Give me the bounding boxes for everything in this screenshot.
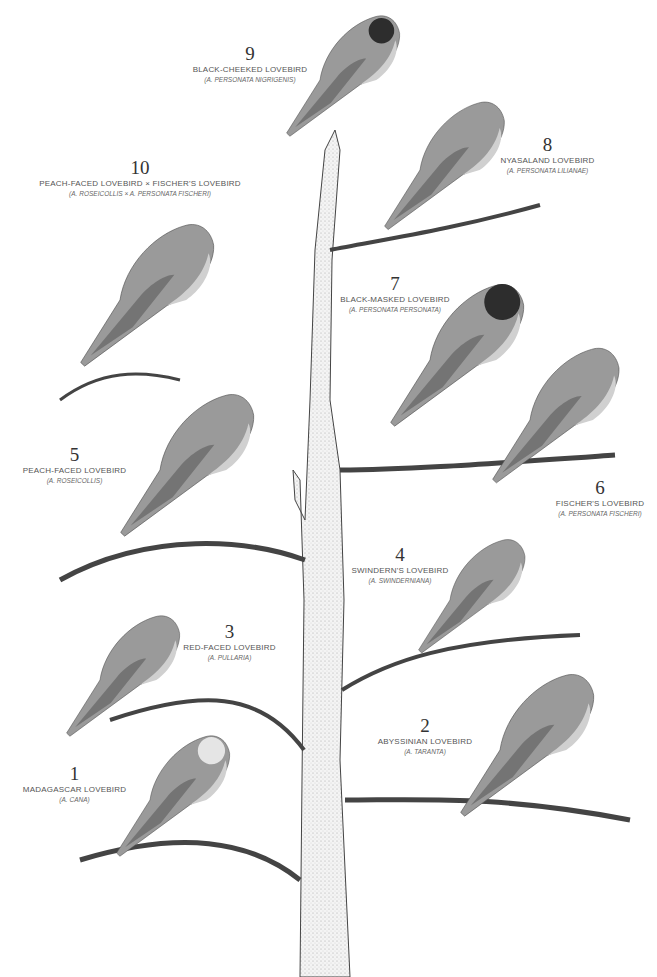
label-bird-3: 3 RED-FACED LOVEBIRD (A. PULLARIA) (182, 622, 277, 662)
bird-number: 10 (25, 158, 255, 178)
common-name: NYASALAND LOVEBIRD (495, 155, 600, 166)
bird-number: 5 (22, 445, 127, 465)
bird-number: 2 (360, 716, 490, 736)
label-bird-9: 9 BLACK-CHEEKED LOVEBIRD (A. PERSONATA N… (185, 44, 315, 84)
latin-name: (A. CANA) (22, 795, 127, 804)
latin-name: (A. PERSONATA LILIANAE) (495, 166, 600, 175)
bird-number: 4 (350, 545, 450, 565)
common-name: PEACH-FACED LOVEBIRD (22, 465, 127, 476)
bird-10 (47, 217, 238, 367)
latin-name: (A. TARANTA) (360, 747, 490, 756)
label-bird-1: 1 MADAGASCAR LOVEBIRD (A. CANA) (22, 764, 127, 804)
latin-name: (A. SWINDERNIANA) (350, 576, 450, 585)
label-bird-5: 5 PEACH-FACED LOVEBIRD (A. ROSEICOLLIS) (22, 445, 127, 485)
bird-number: 1 (22, 764, 127, 784)
common-name: SWINDERN'S LOVEBIRD (350, 565, 450, 576)
label-bird-10: 10 PEACH-FACED LOVEBIRD × FISCHER'S LOVE… (25, 158, 255, 198)
latin-name: (A. PERSONATA FISCHERI) (545, 509, 655, 518)
bird-number: 3 (182, 622, 277, 642)
label-bird-7: 7 BLACK-MASKED LOVEBIRD (A. PERSONATA PE… (330, 274, 460, 314)
bird-number: 6 (545, 478, 655, 498)
latin-name: (A. ROSEICOLLIS × A. PERSONATA FISCHERI) (25, 189, 255, 198)
label-bird-6: 6 FISCHER'S LOVEBIRD (A. PERSONATA FISCH… (545, 478, 655, 518)
common-name: BLACK-MASKED LOVEBIRD (330, 294, 460, 305)
label-bird-4: 4 SWINDERN'S LOVEBIRD (A. SWINDERNIANA) (350, 545, 450, 585)
label-bird-8: 8 NYASALAND LOVEBIRD (A. PERSONATA LILIA… (495, 135, 600, 175)
label-bird-2: 2 ABYSSINIAN LOVEBIRD (A. TARANTA) (360, 716, 490, 756)
common-name: FISCHER'S LOVEBIRD (545, 498, 655, 509)
common-name: MADAGASCAR LOVEBIRD (22, 784, 127, 795)
common-name: PEACH-FACED LOVEBIRD × FISCHER'S LOVEBIR… (25, 178, 255, 189)
bird-number: 9 (185, 44, 315, 64)
latin-name: (A. PERSONATA PERSONATA) (330, 305, 460, 314)
latin-name: (A. ROSEICOLLIS) (22, 476, 127, 485)
common-name: ABYSSINIAN LOVEBIRD (360, 736, 490, 747)
latin-name: (A. PERSONATA NIGRIGENIS) (185, 75, 315, 84)
common-name: RED-FACED LOVEBIRD (182, 642, 277, 653)
common-name: BLACK-CHEEKED LOVEBIRD (185, 64, 315, 75)
bird-number: 7 (330, 274, 460, 294)
latin-name: (A. PULLARIA) (182, 653, 277, 662)
bird-number: 8 (495, 135, 600, 155)
